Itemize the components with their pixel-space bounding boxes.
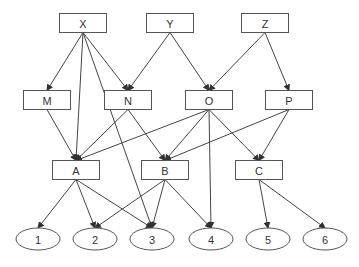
edge-N-to-A bbox=[76, 110, 128, 161]
node-2: 2 bbox=[73, 228, 117, 250]
edge-Y-to-N bbox=[128, 33, 170, 91]
node-label: 5 bbox=[265, 234, 271, 246]
node-Z: Z bbox=[242, 14, 289, 33]
node-label: 2 bbox=[92, 234, 98, 246]
edge-O-to-4 bbox=[209, 110, 211, 229]
node-O: O bbox=[186, 91, 233, 110]
node-P: P bbox=[266, 91, 313, 110]
node-A: A bbox=[53, 161, 100, 180]
node-label: 3 bbox=[149, 234, 155, 246]
edge-X-to-M bbox=[47, 33, 83, 91]
node-label: B bbox=[161, 165, 168, 177]
node-label: O bbox=[205, 95, 214, 107]
edge-C-to-6 bbox=[259, 180, 325, 229]
node-label: A bbox=[72, 165, 80, 177]
node-1: 1 bbox=[16, 228, 60, 250]
edge-O-to-C bbox=[209, 110, 259, 161]
node-B: B bbox=[142, 161, 189, 180]
edge-P-to-C bbox=[259, 110, 289, 161]
edges bbox=[38, 33, 325, 229]
edge-P-to-B bbox=[165, 110, 289, 161]
edge-A-to-1 bbox=[38, 180, 76, 229]
edge-Y-to-O bbox=[170, 33, 209, 91]
node-4: 4 bbox=[189, 228, 233, 250]
node-3: 3 bbox=[130, 228, 174, 250]
edge-A-to-3 bbox=[76, 180, 152, 229]
node-label: N bbox=[124, 95, 132, 107]
node-N: N bbox=[105, 91, 152, 110]
node-X: X bbox=[60, 14, 107, 33]
edge-N-to-B bbox=[128, 110, 165, 161]
edge-M-to-A bbox=[47, 110, 76, 161]
node-label: Z bbox=[262, 18, 269, 30]
node-Y: Y bbox=[147, 14, 194, 33]
node-label: 6 bbox=[322, 234, 328, 246]
edge-O-to-A bbox=[76, 110, 209, 161]
edge-X-to-3 bbox=[83, 33, 152, 229]
node-label: Y bbox=[166, 18, 174, 30]
node-label: 1 bbox=[35, 234, 41, 246]
node-label: 4 bbox=[208, 234, 214, 246]
edge-C-to-5 bbox=[259, 180, 268, 229]
edge-A-to-2 bbox=[76, 180, 95, 229]
edge-B-to-4 bbox=[165, 180, 211, 229]
node-5: 5 bbox=[246, 228, 290, 250]
edge-B-to-2 bbox=[95, 180, 165, 229]
node-label: C bbox=[255, 165, 263, 177]
node-6: 6 bbox=[303, 228, 347, 250]
node-M: M bbox=[24, 91, 71, 110]
node-label: X bbox=[79, 18, 87, 30]
node-label: P bbox=[285, 95, 292, 107]
edge-X-to-A bbox=[76, 33, 83, 161]
edge-Z-to-O bbox=[209, 33, 265, 91]
node-label: M bbox=[42, 95, 51, 107]
directed-graph-diagram: XYZMNOPABC123456 bbox=[0, 0, 359, 267]
node-C: C bbox=[236, 161, 283, 180]
edge-Z-to-P bbox=[265, 33, 289, 91]
edge-O-to-B bbox=[165, 110, 209, 161]
edge-X-to-N bbox=[83, 33, 128, 91]
